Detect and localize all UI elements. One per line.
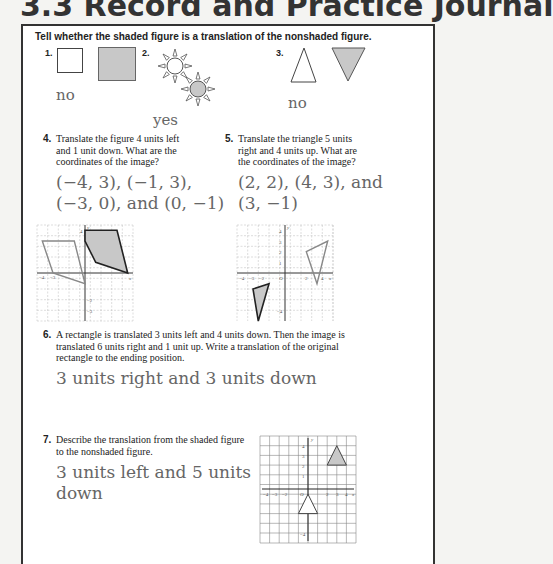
svg-text:3: 3 (302, 454, 305, 459)
svg-text:−4: −4 (239, 276, 245, 281)
svg-text:O: O (300, 492, 304, 497)
svg-text:−4: −4 (277, 309, 283, 314)
svg-text:−3: −3 (87, 309, 93, 314)
problem-1-number: 1. (45, 48, 53, 58)
svg-text:x: x (128, 276, 132, 281)
problem-2-number: 2. (142, 48, 150, 58)
svg-text:x: x (328, 276, 332, 281)
svg-text:−3: −3 (272, 492, 278, 497)
graph-problem-7: y x O −4 −3 −2 2 3 4 4 3 2 1 −4 (260, 436, 356, 543)
problem-2-answer: yes (153, 111, 178, 129)
problem-4-answer: (−4, 3), (−1, 3), (−3, 0), and (0, −1) (56, 172, 224, 214)
svg-text:4: 4 (321, 276, 324, 281)
svg-text:y: y (86, 225, 90, 230)
graph-problem-5: y x O −4 −3 −2 2 4 4 3 2 1 −4 (237, 225, 333, 321)
problem-7-question: 7.Describe the translation from the shad… (56, 434, 256, 457)
problem-3-number: 3. (276, 48, 284, 58)
svg-text:−2: −2 (282, 492, 288, 497)
svg-text:−4: −4 (263, 492, 269, 497)
problem-5-answer: (2, 2), (4, 3), and (3, −1) (238, 172, 383, 214)
triangle-figures (288, 46, 368, 86)
problem-6-answer: 3 units right and 3 units down (56, 368, 317, 389)
graph-problem-4: y x −4 −3 4 −2 −3 (37, 225, 133, 321)
svg-text:2: 2 (279, 250, 282, 255)
svg-text:1: 1 (279, 261, 282, 266)
svg-text:3: 3 (279, 240, 282, 245)
svg-text:y: y (310, 437, 314, 442)
problem-4-question: 4.Translate the figure 4 units left and … (56, 133, 226, 168)
svg-text:y: y (286, 225, 290, 230)
page-title: 3.3 Record and Practice Journal (20, 0, 553, 23)
worksheet-box: Tell whether the shaded figure is a tran… (21, 24, 435, 564)
problem-1-answer: no (56, 86, 75, 104)
instructions: Tell whether the shaded figure is a tran… (35, 31, 372, 42)
svg-text:−4: −4 (39, 275, 45, 280)
svg-text:−4: −4 (300, 532, 306, 537)
shaded-square (98, 47, 136, 81)
problem-6-question: 6.A rectangle is translated 3 units left… (56, 329, 416, 364)
svg-text:−2: −2 (87, 298, 93, 303)
svg-text:−3: −3 (249, 276, 255, 281)
svg-text:−3: −3 (50, 275, 56, 280)
svg-text:2: 2 (302, 464, 305, 469)
sun-figures (153, 44, 233, 114)
svg-text:−2: −2 (259, 276, 265, 281)
problem-3-answer: no (288, 94, 307, 112)
svg-text:O: O (279, 276, 283, 281)
svg-text:4: 4 (80, 229, 83, 234)
problem-5-question: 5.Translate the triangle 5 units right a… (238, 133, 408, 168)
unshaded-square (57, 48, 83, 73)
svg-text:4: 4 (279, 229, 282, 234)
problem-7-answer: 3 units left and 5 units down (56, 462, 251, 504)
svg-text:4: 4 (302, 444, 305, 449)
